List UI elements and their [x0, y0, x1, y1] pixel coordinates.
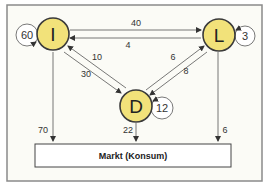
- flow-diagram: 40 4 10 30 6 8 70 22 6 60 3 12 I L D Mar…: [0, 0, 266, 184]
- node-label-i: I: [50, 24, 55, 45]
- flow-label-i-to-market: 70: [38, 125, 48, 135]
- node-d: D: [120, 90, 152, 122]
- node-label-d: D: [129, 96, 143, 117]
- flow-label-d-to-i: 10: [92, 52, 102, 62]
- node-l: L: [203, 19, 235, 51]
- market-label: Markt (Konsum): [99, 151, 168, 161]
- node-label-l: L: [214, 25, 225, 46]
- flow-label-l-to-i: 4: [125, 40, 130, 50]
- flow-label-i-to-d: 30: [81, 69, 91, 79]
- self-loop-label-d: 12: [156, 102, 168, 114]
- flow-label-d-to-market: 22: [123, 125, 133, 135]
- self-loop-label-l: 3: [242, 30, 248, 42]
- node-i: I: [37, 18, 69, 50]
- flow-label-i-to-l: 40: [131, 18, 141, 28]
- flow-label-l-to-d: 8: [183, 66, 188, 76]
- flow-label-l-to-market: 6: [222, 125, 227, 135]
- self-loop-label-i: 60: [21, 29, 33, 41]
- flow-label-d-to-l: 6: [170, 52, 175, 62]
